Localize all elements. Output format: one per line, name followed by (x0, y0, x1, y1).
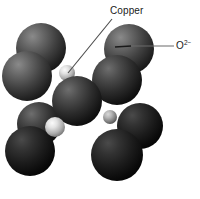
copper-sphere (45, 117, 65, 137)
molecular-model-svg (0, 0, 200, 199)
copper-sphere (103, 110, 117, 124)
oxide-sphere (2, 51, 52, 101)
oxide-label-charge: 2− (184, 39, 191, 46)
oxide-label-base: O (176, 40, 184, 51)
oxide-label: O2− (176, 40, 191, 51)
copper-label: Copper (110, 6, 143, 16)
oxide-sphere (91, 129, 143, 181)
copper-sphere-group-front (45, 117, 65, 137)
copper-oxide-figure: Copper O2− (0, 0, 200, 199)
